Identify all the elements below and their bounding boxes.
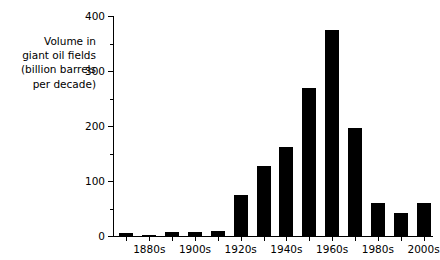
bar [142,235,156,236]
y-tick-label: 200 [85,121,105,132]
x-tick [264,237,265,241]
x-tick [355,237,356,241]
x-axis-line [113,236,433,237]
x-tick [286,237,287,241]
bar [234,195,248,236]
y-axis-title: Volume in giant oil fields (billion barr… [4,34,96,91]
plot-area: 0100200300400 1880s1900s1920s1940s1960s1… [113,16,433,236]
y-tick-major [108,181,113,182]
x-tick [126,237,127,241]
bar [394,213,408,236]
x-tick [172,237,173,241]
x-tick [149,237,150,241]
y-tick-minor [110,44,113,45]
y-tick-major [108,16,113,17]
bar [279,147,293,236]
x-tick [195,237,196,241]
bar [119,233,133,236]
x-tick [332,237,333,241]
x-tick [401,237,402,241]
y-tick-major [108,71,113,72]
y-tick-minor [110,99,113,100]
bar [417,203,431,236]
bar [325,30,339,236]
x-tick [424,237,425,241]
y-tick-minor [110,209,113,210]
bar [348,128,362,236]
x-tick-label: 1980s [362,244,394,255]
bar [165,232,179,236]
y-tick-major [108,236,113,237]
y-axis-line [113,16,114,237]
y-tick-label: 400 [85,11,105,22]
bar [302,88,316,236]
x-tick-label: 1900s [179,244,211,255]
x-tick [218,237,219,241]
bar [257,166,271,236]
x-tick [378,237,379,241]
bar [211,231,225,236]
y-tick-label: 300 [85,66,105,77]
x-tick-label: 1940s [270,244,302,255]
x-tick-label: 1920s [225,244,257,255]
y-tick-major [108,126,113,127]
y-tick-label: 0 [98,231,105,242]
x-tick [241,237,242,241]
y-tick-label: 100 [85,176,105,187]
x-tick-label: 1960s [316,244,348,255]
x-tick-label: 2000s [407,244,439,255]
x-tick-label: 1880s [133,244,165,255]
y-tick-minor [110,154,113,155]
x-tick [309,237,310,241]
bar [188,232,202,236]
bar [371,203,385,236]
